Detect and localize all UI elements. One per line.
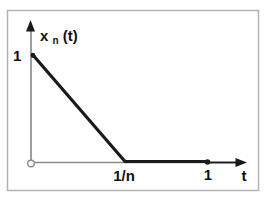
point-0-1-dot (31, 53, 36, 58)
x-tick-label-1n: 1/n (113, 167, 135, 184)
y-tick-label-1: 1 (13, 47, 21, 64)
x-tick-label-1: 1 (204, 166, 212, 183)
origin-open-circle (28, 160, 35, 167)
plot-canvas: x n (t) 1 1/n 1 t (0, 0, 272, 204)
y-axis-label-suffix: (t) (63, 27, 78, 44)
y-axis-label-base: x (40, 27, 49, 44)
y-axis-label-subscript: n (53, 35, 59, 46)
point-1-0-dot (205, 159, 211, 165)
x-axis-label-t: t (242, 167, 247, 184)
function-plot-figure: x n (t) 1 1/n 1 t (0, 0, 272, 204)
